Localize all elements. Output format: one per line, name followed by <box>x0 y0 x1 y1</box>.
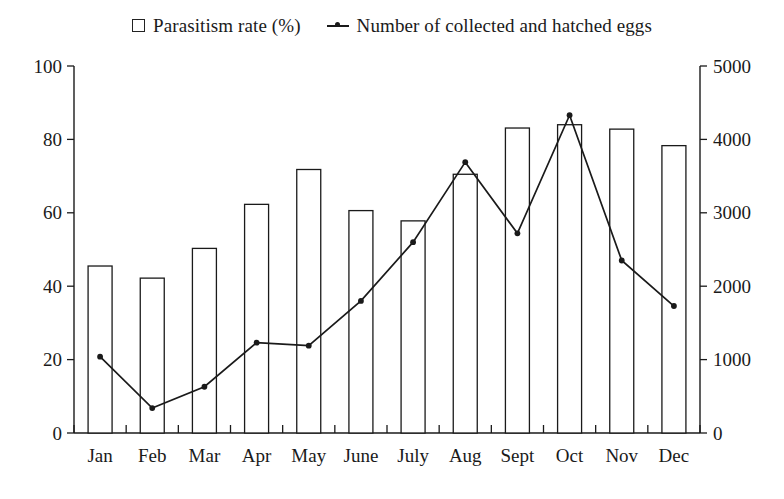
bar-jan <box>88 266 112 433</box>
right-axis-tick-label: 1000 <box>713 349 751 370</box>
bar-nov <box>610 129 634 433</box>
x-axis-category-label: Oct <box>556 445 584 466</box>
egg-count-point-apr <box>254 340 260 346</box>
plot-area: 020406080100010002000300040005000JanFebM… <box>0 0 784 499</box>
bars-group <box>88 125 686 433</box>
bar-apr <box>245 204 269 433</box>
right-axis-tick-label: 4000 <box>713 129 751 150</box>
right-axis-tick-label: 5000 <box>713 56 751 77</box>
x-axis-category-label: Mar <box>189 445 221 466</box>
x-axis-category-label: Nov <box>605 445 638 466</box>
right-axis-tick-label: 2000 <box>713 276 751 297</box>
x-axis-category-label: Apr <box>242 445 272 466</box>
x-axis-category-label: July <box>397 445 429 466</box>
egg-count-point-mar <box>202 384 208 390</box>
bar-aug <box>453 174 477 433</box>
left-axis-tick-label: 20 <box>43 349 62 370</box>
bar-may <box>297 169 321 433</box>
bar-dec <box>662 146 686 433</box>
x-axis-category-label: May <box>291 445 326 466</box>
egg-count-point-oct <box>567 112 573 118</box>
line-series-group <box>97 112 677 411</box>
egg-count-point-dec <box>671 303 677 309</box>
egg-count-point-jan <box>97 354 103 360</box>
x-axis-category-label: Aug <box>449 445 482 466</box>
egg-count-point-july <box>410 239 416 245</box>
egg-count-point-sept <box>515 230 521 236</box>
chart-figure: Parasitism rate (%) Number of collected … <box>0 0 784 499</box>
right-axis-tick-label: 3000 <box>713 202 751 223</box>
left-axis-tick-label: 80 <box>43 129 62 150</box>
egg-count-point-nov <box>619 258 625 264</box>
egg-count-point-aug <box>462 159 468 165</box>
x-axis-category-label: Dec <box>659 445 690 466</box>
egg-count-point-feb <box>149 405 155 411</box>
left-axis-tick-label: 100 <box>34 56 63 77</box>
egg-count-point-june <box>358 298 364 304</box>
egg-count-point-may <box>306 343 312 349</box>
x-axis-category-label: Feb <box>138 445 167 466</box>
left-axis-tick-label: 0 <box>53 423 63 444</box>
x-axis-category-label: June <box>344 445 379 466</box>
egg-count-line <box>100 115 674 408</box>
x-axis-category-label: Sept <box>501 445 536 466</box>
left-axis-tick-label: 60 <box>43 202 62 223</box>
bar-sept <box>505 128 529 433</box>
bar-june <box>349 211 373 433</box>
bar-oct <box>558 125 582 433</box>
x-axis-category-label: Jan <box>87 445 113 466</box>
right-axis-tick-label: 0 <box>713 423 723 444</box>
left-axis-tick-label: 40 <box>43 276 62 297</box>
bar-mar <box>192 248 216 433</box>
